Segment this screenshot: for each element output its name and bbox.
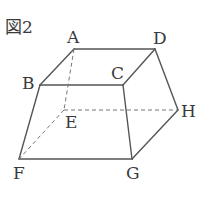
edge-DH bbox=[155, 49, 178, 110]
vertex-label-G: G bbox=[126, 163, 140, 183]
vertex-label-F: F bbox=[13, 163, 25, 183]
vertex-label-E: E bbox=[65, 112, 77, 132]
vertex-label-A: A bbox=[66, 27, 80, 47]
frustum-diagram: 図2 A B C D E F G H bbox=[0, 0, 210, 200]
vertex-label-D: D bbox=[153, 28, 167, 48]
edge-CG bbox=[123, 85, 132, 159]
vertex-label-B: B bbox=[22, 73, 35, 93]
vertex-label-C: C bbox=[111, 63, 124, 83]
figure-title: 図2 bbox=[5, 17, 33, 37]
figure-2: 図2 A B C D E F G H bbox=[0, 0, 210, 200]
edge-GH bbox=[132, 110, 178, 159]
vertex-label-H: H bbox=[181, 101, 196, 121]
edge-CD bbox=[123, 49, 155, 85]
